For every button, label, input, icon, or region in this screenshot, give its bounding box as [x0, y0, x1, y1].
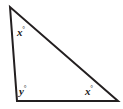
triangle-angle-diagram: x° y° x° — [0, 0, 123, 109]
apex-angle-degree-icon: ° — [22, 25, 25, 33]
bottom-left-angle-label: y° — [19, 85, 26, 97]
apex-angle-label: x° — [17, 26, 25, 38]
bottom-left-angle-degree-icon: ° — [24, 84, 27, 92]
bottom-right-angle-degree-icon: ° — [90, 84, 93, 92]
bottom-right-angle-label: x° — [85, 85, 93, 97]
